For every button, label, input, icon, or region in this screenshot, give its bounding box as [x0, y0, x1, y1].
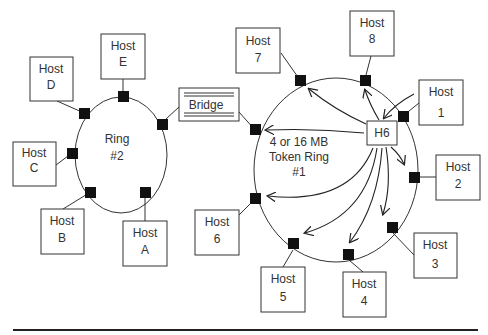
ring-1-label-1: 4 or 16 MB — [270, 135, 329, 149]
host-8-label: Host — [360, 16, 385, 30]
host-1-label: Host — [429, 85, 454, 99]
host-7-label: Host — [246, 34, 271, 48]
host-5-id: 5 — [280, 290, 287, 304]
ring1-node-bridge — [250, 124, 261, 135]
host-5-label: Host — [271, 272, 296, 286]
host-2-id: 2 — [455, 177, 462, 191]
ring1-node-3 — [387, 222, 398, 233]
host-2-label: Host — [446, 160, 471, 174]
host-4-id: 4 — [361, 294, 368, 308]
host-7-id: 7 — [255, 51, 262, 65]
arrow-to-node-2 — [391, 147, 404, 164]
ring-1-label-2: Token Ring — [269, 150, 329, 164]
ring2-node-bridge — [157, 119, 168, 130]
host-b-label: Host — [50, 214, 75, 228]
ring1-node-1 — [398, 111, 409, 122]
arrow-to-node-7 — [309, 89, 366, 124]
ring-1: 4 or 16 MB Token Ring #1 H6 Host 7 Host … — [195, 11, 480, 317]
ring2-node-a — [140, 187, 151, 198]
ring2-node-b — [85, 187, 96, 198]
host-6-id: 6 — [214, 232, 221, 246]
host-8-id: 8 — [369, 32, 376, 46]
ring-2-label-2: #2 — [110, 149, 124, 163]
host-c-id: C — [30, 161, 39, 175]
bridge-label: Bridge — [189, 98, 224, 112]
ring1-node-7 — [295, 75, 306, 86]
arrow-to-node-bridge — [266, 129, 364, 133]
token-ring-diagram: Ring #2 Host E Host D Host C Host B Host… — [0, 0, 488, 335]
bridge: Bridge — [166, 88, 255, 130]
host-3-label: Host — [423, 238, 448, 252]
ring2-node-e — [118, 91, 129, 102]
arrow-to-node-3 — [383, 147, 388, 214]
host-4-label: Host — [352, 277, 377, 291]
ring2-node-d — [79, 108, 90, 119]
ring-1-circle — [254, 78, 418, 262]
ring-1-label-3: #1 — [292, 165, 306, 179]
host-1-id: 1 — [438, 106, 445, 120]
ring-2: Ring #2 Host E Host D Host C Host B Host… — [13, 34, 168, 266]
host-e-label: Host — [111, 39, 136, 53]
host-d-id: D — [47, 78, 56, 92]
ring1-node-6 — [250, 193, 261, 204]
host-e-id: E — [119, 55, 127, 69]
broadcast-arrows — [266, 89, 414, 242]
host-c-label: Host — [22, 146, 47, 160]
host-3-id: 3 — [432, 257, 439, 271]
host-a-label: Host — [133, 226, 158, 240]
h6-label: H6 — [374, 126, 390, 140]
ring1-node-2 — [409, 172, 420, 183]
ring2-node-c — [67, 148, 78, 159]
host-a-id: A — [141, 243, 149, 257]
host-b-id: B — [58, 231, 66, 245]
ring-2-label-1: Ring — [105, 132, 130, 146]
host-6-label: Host — [205, 215, 230, 229]
arrow-to-node-8 — [365, 90, 379, 120]
ring1-node-5 — [288, 238, 299, 249]
ring1-node-4 — [343, 249, 354, 260]
host-d-label: Host — [39, 62, 64, 76]
ring1-node-8 — [360, 75, 371, 86]
